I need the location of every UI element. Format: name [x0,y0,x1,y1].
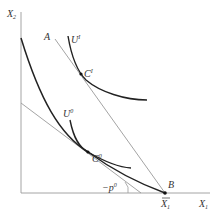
x-axis-label: X1 [198,198,208,210]
u0-label: U0 [63,108,73,119]
point-a-label: A [43,31,51,42]
y-axis-label: X2 [6,8,16,20]
production-curve [21,38,165,193]
indifference-curve-u1 [68,36,147,100]
u1-label: UI [71,34,81,45]
x-bar-label: X1 [160,198,170,210]
c1-label: CI [84,68,94,79]
point-c0 [86,150,89,153]
point-c1 [79,72,82,75]
slope-label: −p0 [102,182,117,193]
point-b [163,191,167,195]
trade-diagram: X2 A UI CI U0 C0 −p0 B X1 X1 [0,0,219,218]
point-b-label: B [168,179,174,190]
